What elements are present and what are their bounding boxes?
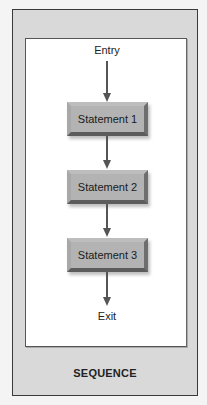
arrowhead-icon — [103, 93, 111, 102]
exit-label: Exit — [57, 310, 157, 322]
arrow-statement-2-to-3 — [106, 204, 108, 231]
arrowhead-icon — [103, 160, 111, 169]
statement-3-label: Statement 3 — [78, 249, 137, 261]
entry-label: Entry — [57, 44, 157, 56]
arrowhead-icon — [103, 297, 111, 306]
diagram-caption: SEQUENCE — [12, 367, 198, 379]
arrow-entry-to-statement-1 — [106, 61, 108, 95]
statement-2-box: Statement 2 — [67, 170, 148, 204]
arrow-statement-3-to-exit — [106, 272, 108, 299]
arrow-statement-1-to-2 — [106, 136, 108, 163]
statement-1-box: Statement 1 — [67, 102, 148, 136]
arrowhead-icon — [103, 228, 111, 237]
statement-3-box: Statement 3 — [67, 238, 148, 272]
statement-1-label: Statement 1 — [78, 113, 137, 125]
statement-2-label: Statement 2 — [78, 181, 137, 193]
